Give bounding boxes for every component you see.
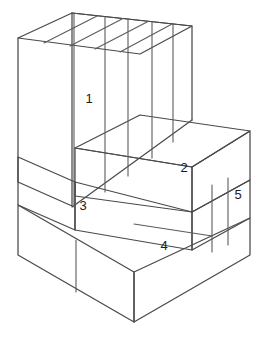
face-label-2: 2: [180, 160, 187, 175]
face-label-4: 4: [160, 238, 167, 253]
stepped-block-diagram: 1 2 3 4 5: [0, 0, 265, 352]
face-label-5: 5: [234, 187, 241, 202]
figure-root: 1 2 3 4 5: [0, 0, 265, 352]
face-label-1: 1: [85, 91, 92, 106]
face-label-3: 3: [79, 198, 86, 213]
